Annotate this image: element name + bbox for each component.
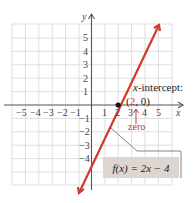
x-tick: −3 — [43, 108, 54, 118]
y-tick: −3 — [79, 141, 90, 151]
y-tick: 2 — [83, 74, 88, 84]
x-tick: −5 — [16, 108, 27, 118]
function-label-box: f(x) = 2x − 4 — [103, 157, 179, 178]
x-tick: 4 — [142, 108, 147, 118]
x-tick: −4 — [30, 108, 41, 118]
x-tick: 3 — [128, 108, 133, 118]
y-tick: 5 — [83, 33, 88, 43]
y-tick: 1 — [83, 87, 88, 97]
x-tick: 1 — [102, 108, 107, 118]
intercept-title: x-intercept: — [133, 82, 183, 93]
x-tick: 2 — [115, 108, 120, 118]
y-tick: −4 — [79, 154, 90, 164]
x-tick: −1 — [70, 108, 81, 118]
function-label: f(x) = 2x − 4 — [113, 162, 170, 174]
intercept-point-label: (2, 0) — [126, 96, 150, 107]
y-tick: 4 — [83, 47, 88, 57]
y-axis-label: y — [82, 12, 86, 22]
x-axis-label: x — [176, 108, 180, 118]
y-tick: −2 — [79, 127, 90, 137]
zero-label: zero — [128, 122, 145, 132]
x-tick: −2 — [57, 108, 68, 118]
y-tick: 3 — [83, 60, 88, 70]
x-tick: 5 — [156, 108, 161, 118]
